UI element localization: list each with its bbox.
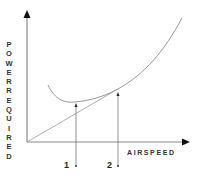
marker-1-arrow-icon [75, 103, 78, 107]
marker-1-dot-icon [75, 165, 77, 167]
y-axis-arrow-icon [24, 10, 31, 18]
power-required-curve [48, 18, 182, 102]
tangent-line [27, 89, 118, 142]
marker-label-1: 1 [64, 160, 69, 170]
marker-2-dot-icon [117, 165, 119, 167]
x-axis-label: AIRSPEED [127, 149, 176, 156]
marker-2-arrow-icon [117, 92, 120, 96]
x-axis-arrow-icon [182, 139, 190, 146]
y-axis-label: POWERREQUIRED [5, 40, 13, 161]
marker-label-2: 2 [107, 160, 112, 170]
